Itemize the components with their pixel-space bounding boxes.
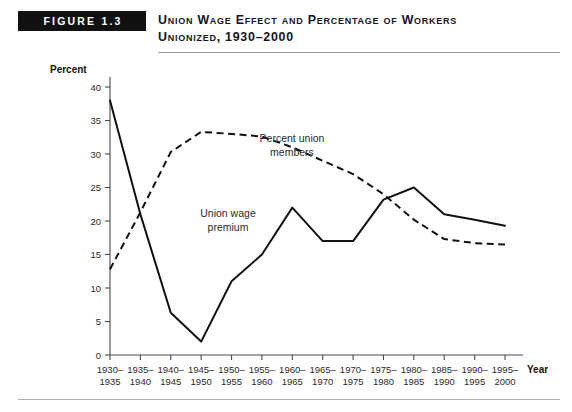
x-axis-group: 1930–19351935–19401940–19451945–19501950…: [97, 355, 548, 387]
x-tick-label: 1985–: [431, 364, 458, 375]
x-tick-label: 1955–: [249, 364, 276, 375]
x-tick-label: 1940–: [158, 364, 185, 375]
y-tick-label: 30: [90, 149, 101, 160]
chart-canvas: 0510152025303540 Percent 1930–19351935–1…: [0, 62, 572, 392]
x-tick-label: 1980–: [401, 364, 428, 375]
x-tick-label: 1960–: [279, 364, 306, 375]
x-tick-label: 1970: [312, 376, 333, 387]
x-tick-label: 1965: [282, 376, 303, 387]
x-tick-label: 1960: [251, 376, 272, 387]
figure-title-line-2: Unionized, 1930–2000: [158, 29, 558, 46]
x-tick-label: 1940: [130, 376, 151, 387]
title-divider: [158, 52, 560, 53]
y-tick-label: 10: [90, 283, 101, 294]
x-tick-label: 1975–: [370, 364, 397, 375]
x-tick-label: 1995: [464, 376, 485, 387]
x-tick-label-group: 1930–19351935–19401940–19451945–19501950…: [97, 364, 519, 387]
y-tick-label: 20: [90, 216, 101, 227]
y-tick-label: 35: [90, 115, 101, 126]
x-axis-title: Year: [527, 364, 548, 375]
x-tick-group: [110, 355, 505, 360]
x-tick-label: 1945–: [188, 364, 215, 375]
series-annotation-label: Percent union: [260, 132, 325, 144]
figure-number-badge: FIGURE 1.3: [18, 11, 146, 31]
x-tick-label: 1975: [343, 376, 364, 387]
x-tick-label: 1970–: [340, 364, 367, 375]
figure-title: Union Wage Effect and Percentage of Work…: [158, 12, 558, 45]
y-axis-title: Percent: [50, 64, 87, 75]
series-annotation-label: members: [270, 146, 314, 158]
x-tick-label: 1950–: [218, 364, 245, 375]
y-axis-group: 0510152025303540 Percent: [50, 64, 110, 361]
x-tick-label: 1935–: [127, 364, 154, 375]
y-tick-label: 40: [90, 82, 101, 93]
y-tick-label: 0: [96, 350, 101, 361]
x-tick-label: 1930–: [97, 364, 124, 375]
x-tick-label: 1955: [221, 376, 242, 387]
footer-divider: [18, 399, 560, 400]
series-annotation-label: Union wage: [200, 207, 256, 219]
x-tick-label: 1995–: [492, 364, 519, 375]
x-tick-label: 1945: [160, 376, 181, 387]
x-tick-label: 1980: [373, 376, 394, 387]
x-tick-label: 1935: [99, 376, 120, 387]
x-tick-label: 2000: [494, 376, 515, 387]
figure-title-line-1: Union Wage Effect and Percentage of Work…: [158, 12, 558, 29]
x-tick-label: 1985: [403, 376, 424, 387]
line-chart: 0510152025303540 Percent 1930–19351935–1…: [0, 62, 572, 392]
x-tick-label: 1990–: [461, 364, 488, 375]
x-tick-label: 1965–: [309, 364, 336, 375]
y-tick-group: 0510152025303540: [90, 82, 110, 361]
y-tick-label: 25: [90, 182, 101, 193]
y-tick-label: 5: [96, 316, 101, 327]
y-tick-label: 15: [90, 249, 101, 260]
x-tick-label: 1990: [434, 376, 455, 387]
annotation-group: Percent unionmembersUnion wagepremium: [200, 132, 324, 233]
x-tick-label: 1950: [191, 376, 212, 387]
figure-header: FIGURE 1.3 Union Wage Effect and Percent…: [0, 0, 572, 62]
series-annotation-label: premium: [208, 221, 249, 233]
